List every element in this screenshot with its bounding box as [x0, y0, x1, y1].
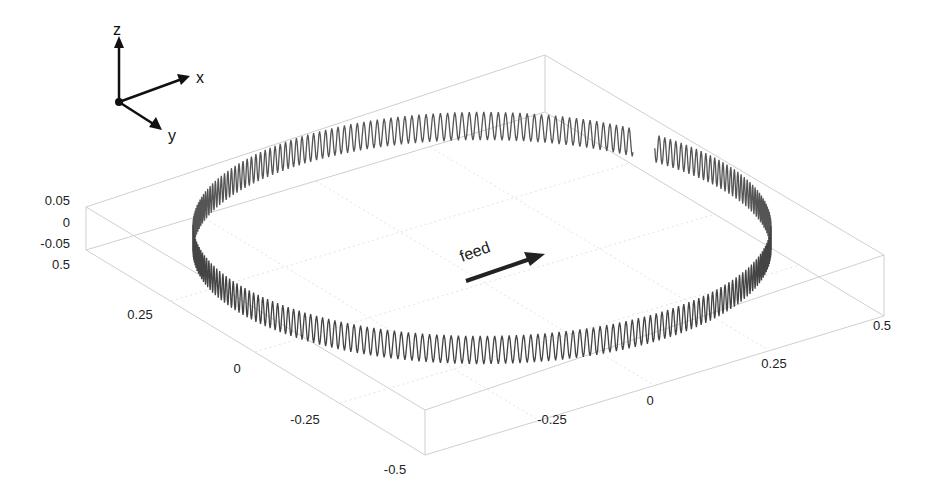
y-tick: 0.5: [52, 257, 70, 272]
y-axis-label: y: [168, 127, 176, 144]
chart-canvas: z x y 0.05 0 -0.05 0.5 0.25 0 -0.25 -0.5…: [0, 0, 926, 502]
y-tick: 0: [233, 361, 240, 376]
z-axis-label: z: [113, 21, 121, 38]
y-tick: 0.25: [127, 307, 152, 322]
x-tick: -0.25: [537, 412, 567, 427]
x-tick: 0.25: [761, 356, 786, 371]
x-ticks: -0.25 0 0.25 0.5: [537, 318, 891, 427]
toolpath-curve-back: [193, 112, 771, 251]
y-tick: -0.25: [290, 412, 320, 427]
z-tick: -0.05: [40, 236, 70, 251]
feed-label: feed: [457, 238, 492, 265]
z-tick: 0.05: [45, 193, 70, 208]
x-tick: 0: [646, 393, 653, 408]
x-axis-label: x: [196, 69, 204, 86]
y-tick: -0.5: [384, 462, 406, 477]
x-tick: 0.5: [873, 318, 891, 333]
orientation-triad: z x y: [113, 21, 204, 144]
z-ticks: 0.05 0 -0.05: [40, 193, 70, 251]
z-tick: 0: [63, 215, 70, 230]
feed-arrow-icon: [524, 252, 545, 266]
